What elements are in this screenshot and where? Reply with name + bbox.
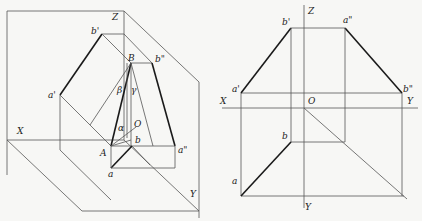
line-a-prime-b-prime-proj <box>241 28 291 93</box>
label-a-prime: a' <box>48 90 56 100</box>
label-gamma: γ <box>131 85 137 95</box>
label-b-dprime-right: b" <box>403 84 413 94</box>
label-a-right: a <box>232 176 237 186</box>
proj-b-to-Y <box>132 146 150 165</box>
miter-line-45 <box>304 108 407 199</box>
label-a-dprime: a" <box>178 145 188 155</box>
label-O-right: O <box>308 96 316 106</box>
label-Z: Z <box>111 12 119 22</box>
label-b-right: b <box>282 131 288 141</box>
label-a: a <box>108 169 113 179</box>
proj-a-prime-to-A <box>60 95 111 146</box>
label-b-dprime: b" <box>155 54 165 64</box>
label-a-dprime-right: a" <box>343 15 353 25</box>
gamma-line <box>131 63 153 146</box>
label-B: B <box>127 53 135 63</box>
w-plane-frame <box>124 11 199 218</box>
label-beta: β <box>116 85 122 95</box>
label-Y: Y <box>190 189 197 199</box>
orthographic-view: Z b' a" a' b" X O Y b a Y <box>219 5 418 212</box>
label-X-right: X <box>219 96 227 106</box>
label-Y-right: Y <box>407 96 414 106</box>
line-a-dprime-b-dprime-proj <box>345 28 402 93</box>
label-O: O <box>134 119 142 129</box>
label-alpha: α <box>118 123 124 133</box>
label-A: A <box>99 148 107 158</box>
line-A-b <box>111 140 131 146</box>
pictorial-view: Z b' B b" β γ a' O α X b A a" a Y <box>7 11 199 218</box>
line-a-dprime-b-dprime <box>152 63 175 146</box>
line-a-b-proj <box>241 142 291 196</box>
label-b: b <box>135 135 141 145</box>
line-a-prime-b-prime <box>60 34 102 95</box>
label-Z-right: Z <box>307 6 315 16</box>
label-a-prime-right: a' <box>232 84 240 94</box>
projection-figure: Z b' B b" β γ a' O α X b A a" a Y <box>0 0 422 221</box>
label-b-prime-right: b' <box>282 17 290 27</box>
proj-b-prime-to-B <box>102 34 131 63</box>
label-X: X <box>16 126 24 136</box>
line-a-b <box>111 146 132 168</box>
beta-line <box>90 63 131 125</box>
label-Y-bottom: Y <box>305 202 312 212</box>
label-b-prime: b' <box>91 26 99 36</box>
y-axis <box>124 140 199 211</box>
